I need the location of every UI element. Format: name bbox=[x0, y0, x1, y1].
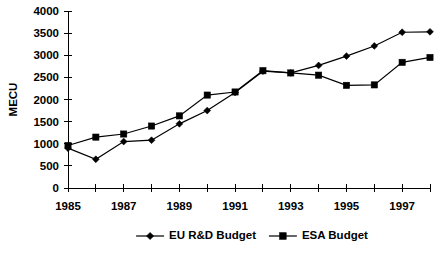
data-point-marker bbox=[260, 68, 266, 74]
data-point-marker bbox=[371, 82, 377, 88]
data-point-marker bbox=[176, 120, 183, 127]
legend-marker-square bbox=[280, 233, 287, 240]
x-tick-label: 1987 bbox=[111, 200, 137, 212]
data-point-marker bbox=[399, 59, 405, 65]
chart-container: 0500100015002000250030003500400019851987… bbox=[0, 0, 441, 253]
legend-marker-diamond bbox=[147, 232, 154, 239]
data-point-marker bbox=[92, 156, 99, 163]
y-tick-label: 500 bbox=[40, 160, 59, 172]
legend-label-esa-budget: ESA Budget bbox=[302, 229, 368, 241]
data-point-marker bbox=[232, 89, 238, 95]
data-point-marker bbox=[288, 70, 294, 76]
data-point-marker bbox=[427, 54, 433, 60]
line-chart: 0500100015002000250030003500400019851987… bbox=[0, 0, 441, 253]
x-tick-label: 1997 bbox=[389, 200, 415, 212]
data-point-marker bbox=[399, 29, 406, 36]
y-tick-label: 3500 bbox=[33, 27, 59, 39]
data-point-marker bbox=[204, 107, 211, 114]
y-tick-label: 4000 bbox=[33, 5, 59, 17]
data-point-marker bbox=[343, 82, 349, 88]
data-point-marker bbox=[315, 62, 322, 69]
series-esa-budget bbox=[65, 54, 433, 148]
chart-legend: EU R&D BudgetESA Budget bbox=[136, 229, 368, 241]
y-axis-title: MECU bbox=[7, 83, 19, 117]
y-tick-label: 0 bbox=[53, 182, 59, 194]
x-tick-label: 1995 bbox=[334, 200, 360, 212]
data-point-marker bbox=[316, 72, 322, 78]
data-point-marker bbox=[371, 43, 378, 50]
data-point-marker bbox=[427, 28, 434, 35]
x-tick-label: 1989 bbox=[167, 200, 193, 212]
x-tick-label: 1993 bbox=[278, 200, 304, 212]
x-tick-label: 1985 bbox=[55, 200, 81, 212]
data-point-marker bbox=[120, 138, 127, 145]
data-point-marker bbox=[343, 53, 350, 60]
legend-label-eu-rd-budget: EU R&D Budget bbox=[169, 229, 256, 241]
data-point-marker bbox=[65, 142, 71, 148]
x-tick-label: 1991 bbox=[222, 200, 248, 212]
series-eu-rd-budget bbox=[65, 28, 434, 162]
y-tick-label: 2500 bbox=[33, 71, 59, 83]
y-tick-label: 3000 bbox=[33, 49, 59, 61]
data-point-marker bbox=[121, 131, 127, 137]
data-point-marker bbox=[148, 137, 155, 144]
y-tick-label: 2000 bbox=[33, 94, 59, 106]
data-point-marker bbox=[93, 134, 99, 140]
y-tick-label: 1000 bbox=[33, 138, 59, 150]
data-point-marker bbox=[204, 92, 210, 98]
data-point-marker bbox=[148, 123, 154, 129]
data-point-marker bbox=[176, 113, 182, 119]
y-tick-label: 1500 bbox=[33, 116, 59, 128]
